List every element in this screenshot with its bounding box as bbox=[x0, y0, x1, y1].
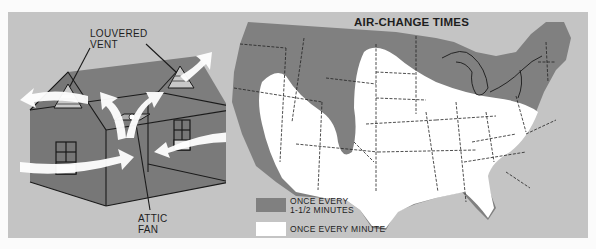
louvered-vent-label-line2: VENT bbox=[90, 39, 147, 50]
house-ventilation-diagram: LOUVERED VENT ATTIC FAN bbox=[8, 12, 228, 238]
louvered-vent-label: LOUVERED VENT bbox=[90, 28, 147, 50]
attic-fan-label: ATTIC FAN bbox=[138, 213, 168, 235]
legend-swatch-fast bbox=[256, 222, 286, 236]
map-title: AIR-CHANGE TIMES bbox=[354, 16, 469, 28]
legend-label-slow-line2: 1-1/2 MINUTES bbox=[290, 206, 354, 215]
legend-swatch-slow bbox=[256, 198, 286, 212]
air-change-times-map: AIR-CHANGE TIMES ONCE EVERY 1-1/2 MINUTE… bbox=[226, 12, 588, 238]
legend-label-fast: ONCE EVERY MINUTE bbox=[290, 225, 385, 234]
louvered-vent-label-line1: LOUVERED bbox=[90, 28, 147, 39]
attic-fan-label-line2: FAN bbox=[138, 224, 168, 235]
legend-label-slow: ONCE EVERY 1-1/2 MINUTES bbox=[290, 197, 354, 215]
attic-fan-label-line1: ATTIC bbox=[138, 213, 168, 224]
